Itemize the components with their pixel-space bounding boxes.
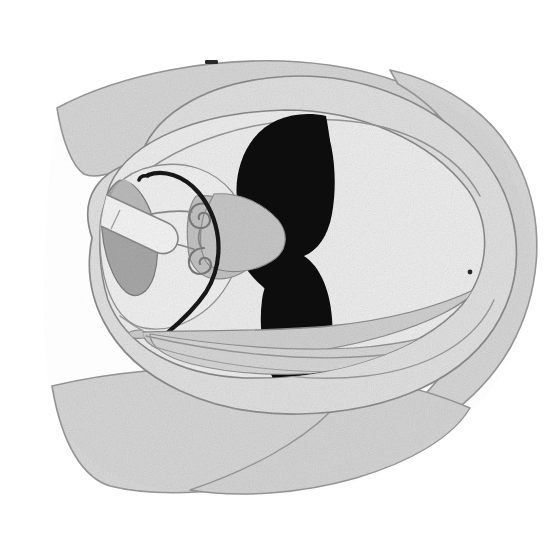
print-grain-veil — [0, 0, 551, 542]
anatomical-figure-root — [0, 0, 551, 542]
anatomical-section-drawing — [0, 0, 551, 542]
